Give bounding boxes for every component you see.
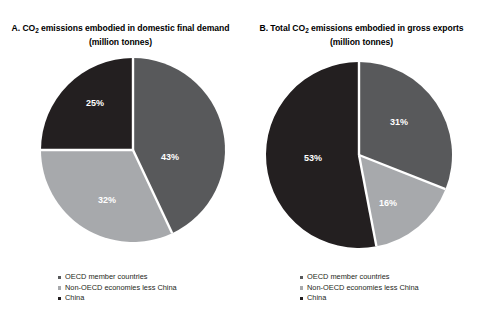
panel-b-legend: OECD member countries Non-OECD economies… [300, 272, 419, 304]
legend-label-china: China [65, 293, 84, 304]
panel-a-title-prefix: A. CO [12, 23, 36, 33]
legend-item-oecd[interactable]: OECD member countries [300, 272, 419, 283]
legend-swatch-oecd-icon [58, 276, 61, 279]
panel-b-pie-svg: 31% 16% 53% [266, 62, 452, 248]
panel-a-title-rest: emissions embodied in domestic final dem… [39, 23, 230, 33]
pie-label-non-oecd: 32% [98, 195, 116, 205]
legend-swatch-china-icon [58, 297, 61, 300]
legend-item-non-oecd[interactable]: Non-OECD economies less China [58, 283, 177, 294]
panel-a-title-units: (million tonnes) [89, 37, 152, 47]
panel-b-title-rest: emissions embodied in gross exports [309, 23, 464, 33]
panel-a-pie-svg: 43% 32% 25% [41, 58, 225, 242]
legend-label-non-oecd: Non-OECD economies less China [65, 283, 177, 294]
pie-label-non-oecd: 16% [379, 198, 397, 208]
legend-item-china[interactable]: China [300, 293, 419, 304]
legend-item-non-oecd[interactable]: Non-OECD economies less China [300, 283, 419, 294]
legend-label-oecd: OECD member countries [65, 272, 148, 283]
panel-a-pie: 43% 32% 25% [41, 58, 225, 242]
panel-a-legend: OECD member countries Non-OECD economies… [58, 272, 177, 304]
legend-swatch-oecd-icon [300, 276, 303, 279]
legend-swatch-non-oecd-icon [58, 286, 61, 289]
panel-a: A. CO2 emissions embodied in domestic fi… [0, 0, 241, 335]
panel-a-title: A. CO2 emissions embodied in domestic fi… [6, 22, 235, 48]
legend-label-china: China [307, 293, 326, 304]
figure-two-pie-charts: A. CO2 emissions embodied in domestic fi… [0, 0, 482, 335]
panel-a-title-subscript: 2 [35, 27, 39, 34]
panel-b-title-units: (million tonnes) [330, 37, 393, 47]
panel-b-pie: 31% 16% 53% [266, 62, 452, 248]
pie-label-oecd: 43% [161, 152, 179, 162]
legend-item-oecd[interactable]: OECD member countries [58, 272, 177, 283]
pie-label-china: 53% [304, 153, 322, 163]
legend-label-non-oecd: Non-OECD economies less China [307, 283, 419, 294]
panel-b: B. Total CO2 emissions embodied in gross… [241, 0, 482, 335]
legend-label-oecd: OECD member countries [307, 272, 390, 283]
legend-swatch-non-oecd-icon [300, 286, 303, 289]
legend-item-china[interactable]: China [58, 293, 177, 304]
pie-label-oecd: 31% [390, 117, 408, 127]
legend-swatch-china-icon [300, 297, 303, 300]
panel-b-title: B. Total CO2 emissions embodied in gross… [247, 22, 476, 48]
panel-b-title-subscript: 2 [305, 27, 309, 34]
panel-b-title-prefix: B. Total CO [260, 23, 306, 33]
pie-label-china: 25% [86, 98, 104, 108]
